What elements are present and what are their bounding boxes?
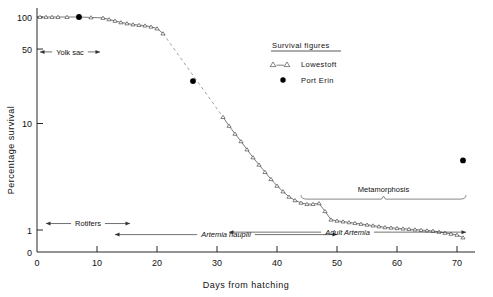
artemia-nauplii-label: Artemia nauplii (200, 230, 251, 239)
x-tick-label: 10 (92, 258, 102, 268)
x-tick-label: 50 (332, 258, 342, 268)
x-tick-label: 70 (452, 258, 462, 268)
yolk-sac-label: Yolk sac (56, 48, 84, 57)
x-tick-label: 60 (392, 258, 402, 268)
y-tick-label: 50 (22, 45, 32, 55)
y-origin-label: 0 (27, 248, 32, 258)
port-erin-marker (190, 78, 196, 84)
legend-label-port-erin: Port Erin (301, 76, 334, 85)
legend-label-lowestoft: Lowestoft (301, 60, 337, 69)
y-tick-label: 1 (27, 226, 32, 236)
x-tick-label: 40 (272, 258, 282, 268)
rotifers-label: Rotifers (75, 219, 101, 228)
port-erin-marker (76, 14, 82, 20)
x-tick-label: 0 (34, 258, 39, 268)
y-tick-label: 10 (22, 119, 32, 129)
survival-chart: 010203040506070 110501000 Days from hatc… (0, 0, 493, 297)
y-tick-label: 100 (17, 13, 32, 23)
adult-artemia-label: Adult Artemia (324, 228, 370, 237)
x-tick-label: 20 (152, 258, 162, 268)
metamorphosis-label: Metamorphosis (358, 185, 410, 194)
x-tick-label: 30 (212, 258, 222, 268)
port-erin-marker (460, 158, 466, 164)
legend-title: Survival figures (272, 41, 330, 50)
y-axis-title: Percentage survival (6, 106, 16, 195)
filled-circle-icon (280, 77, 285, 82)
chart-root: 010203040506070 110501000 Days from hatc… (0, 0, 493, 297)
x-axis-title: Days from hatching (203, 280, 290, 290)
